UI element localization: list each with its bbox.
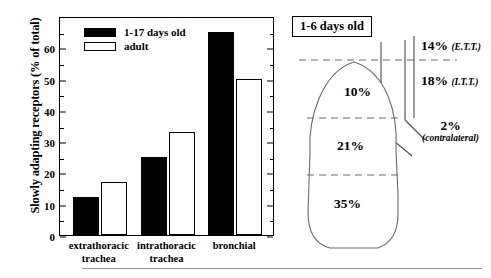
y-tick-label-60: 60 [44,43,55,55]
x-axis-label-3: bronchial [184,240,284,253]
ett-paren: (E.T.T.) [451,42,481,52]
legend-swatch-hollow [84,42,116,51]
legend-label-juvenile: 1-17 days old [124,26,186,38]
ett-label: 14% (E.T.T.) [421,38,481,54]
legend-item-juvenile: 1-17 days old [84,25,186,39]
y-tick-label-40: 40 [44,106,55,118]
lung-zone-upper-label: 10% [344,84,371,100]
x-axis-label-line2: trachea [117,253,217,266]
y-minor-tick [60,128,64,129]
itt-paren: (I.T.T.) [451,77,478,87]
lung-zone-middle-label: 21% [337,138,364,154]
y-minor-tick [270,65,274,66]
bar-adult-1 [101,182,127,235]
legend-item-adult: adult [84,39,186,53]
y-minor-tick [60,65,64,66]
y-tick-50 [267,80,273,81]
y-tick-50 [60,80,66,81]
y-tick-20 [60,174,66,175]
contralateral-value: 2% [440,118,460,133]
y-tick-30 [267,143,273,144]
y-tick-30 [60,143,66,144]
y-tick-40 [267,111,273,112]
y-minor-tick [270,96,274,97]
itt-value: 18% [421,73,448,88]
y-tick-10 [60,205,66,206]
lung-zone-lower-label: 35% [334,196,361,212]
y-minor-tick [270,159,274,160]
legend-label-adult: adult [124,40,148,52]
y-minor-tick [60,159,64,160]
contralateral-paren: (contralateral) [422,133,479,143]
ett-value: 14% [421,38,448,53]
y-tick-label-30: 30 [44,137,55,149]
y-minor-tick [60,34,64,35]
y-tick-60 [60,49,66,50]
lung-diagram-panel: 1-6 days old 10% 21% 35% 14% (E.T.T.) 18… [282,0,491,278]
y-tick-0 [60,237,66,238]
bar-juvenile-2 [141,157,167,235]
chart-legend: 1-17 days old adult [84,25,186,53]
bar-juvenile-1 [73,197,99,235]
y-axis-title: Slowly adapting receptors (% of total) [28,1,43,231]
bar-chart-panel: Slowly adapting receptors (% of total) 0… [0,0,282,278]
figure-bottom-rule [82,268,482,269]
y-minor-tick [60,190,64,191]
y-tick-label-50: 50 [44,75,55,87]
y-minor-tick [270,128,274,129]
y-tick-40 [60,111,66,112]
y-minor-tick [270,190,274,191]
y-tick-label-10: 10 [44,200,55,212]
bar-adult-2 [169,132,195,235]
y-minor-tick [60,96,64,97]
y-tick-10 [267,205,273,206]
y-minor-tick [60,221,64,222]
legend-swatch-filled [84,28,116,37]
y-tick-0 [267,237,273,238]
x-axis-label-line1: bronchial [184,240,284,253]
bar-adult-3 [236,79,262,235]
y-tick-60 [267,49,273,50]
itt-label: 18% (I.T.T.) [421,73,478,89]
y-tick-20 [267,174,273,175]
contralateral-label: 2% (contralateral) [422,118,479,143]
bar-juvenile-3 [208,32,234,235]
y-minor-tick [270,34,274,35]
y-minor-tick [270,221,274,222]
y-tick-label-20: 20 [44,168,55,180]
